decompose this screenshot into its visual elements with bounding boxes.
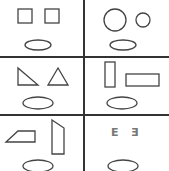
isosceles-triangle-shape xyxy=(48,68,68,85)
letter-e: E xyxy=(111,126,119,139)
right-triangle-shape xyxy=(18,68,38,85)
parallelogram-shape xyxy=(6,131,35,142)
square-shape xyxy=(18,9,32,23)
cell-top-right xyxy=(104,9,150,50)
answer-oval[interactable] xyxy=(108,160,138,171)
horizontal-rectangle-shape xyxy=(126,74,159,86)
cell-bottom-left xyxy=(6,120,64,171)
cell-top-left xyxy=(18,9,59,50)
answer-oval[interactable] xyxy=(107,97,137,109)
cell-middle-left xyxy=(18,68,68,109)
square-shape xyxy=(45,9,59,23)
cell-bottom-right xyxy=(108,160,138,171)
answer-oval[interactable] xyxy=(110,40,136,50)
cell-middle-right xyxy=(105,62,159,109)
small-circle-shape xyxy=(136,13,150,27)
trapezoid-shape xyxy=(52,120,64,154)
vertical-rectangle-shape xyxy=(105,62,115,87)
large-circle-shape xyxy=(104,9,126,31)
answer-oval[interactable] xyxy=(25,40,51,50)
answer-oval[interactable] xyxy=(23,160,53,171)
shape-grid-diagram xyxy=(0,0,169,171)
mirrored-letter-e: Ǝ xyxy=(131,126,139,139)
answer-oval[interactable] xyxy=(23,97,53,109)
